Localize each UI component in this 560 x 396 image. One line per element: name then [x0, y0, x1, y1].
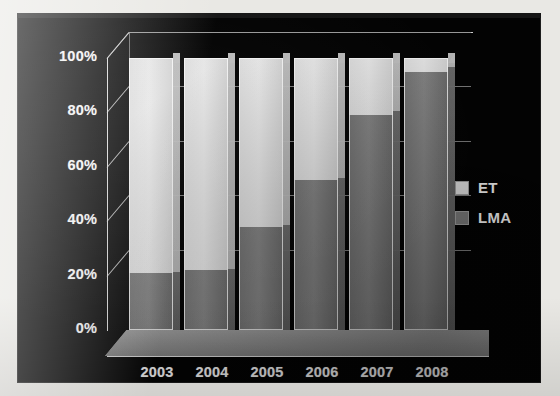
bar-2006[interactable] — [294, 58, 338, 330]
segment-et-2004[interactable] — [184, 58, 228, 270]
segment-lma-2004[interactable] — [184, 270, 228, 330]
bar-2005[interactable] — [239, 58, 283, 330]
legend-item-ET[interactable]: ET — [455, 179, 511, 196]
bar-side-face-2004 — [228, 53, 235, 330]
segment-et-2006[interactable] — [294, 58, 338, 180]
segment-lma-2003[interactable] — [129, 273, 173, 330]
y-axis-tick-label: 60% — [45, 157, 97, 173]
y-axis-line — [107, 58, 108, 331]
x-axis-tick-label-2004: 2004 — [184, 364, 240, 380]
bar-2007[interactable] — [349, 58, 393, 330]
legend-swatch-LMA — [455, 211, 469, 225]
y-axis-tick-label: 20% — [45, 266, 97, 282]
segment-lma-2008[interactable] — [404, 72, 448, 330]
y-gridline — [129, 32, 471, 33]
bar-2008[interactable] — [404, 58, 448, 330]
chart-plate: 0%20%40%60%80%100%2003200420052006200720… — [17, 13, 541, 383]
segment-et-2007[interactable] — [349, 58, 393, 115]
bar-side-face-2005 — [283, 53, 290, 330]
legend-label-LMA: LMA — [478, 209, 511, 226]
legend-item-LMA[interactable]: LMA — [455, 209, 511, 226]
bar-side-face-2006 — [338, 53, 345, 330]
x-axis-tick-label-2008: 2008 — [404, 364, 460, 380]
x-axis-tick-label-2005: 2005 — [239, 364, 295, 380]
chart-legend: ETLMA — [455, 179, 511, 239]
y-tick-leader — [107, 195, 130, 222]
plot-area: 0%20%40%60%80%100%2003200420052006200720… — [17, 13, 541, 383]
bar-2003[interactable] — [129, 58, 173, 330]
segment-et-2005[interactable] — [239, 58, 283, 227]
photo-page-background: 0%20%40%60%80%100%2003200420052006200720… — [0, 0, 560, 396]
bar-2004[interactable] — [184, 58, 228, 330]
x-axis-tick-label-2003: 2003 — [129, 364, 185, 380]
segment-et-2008[interactable] — [404, 58, 448, 72]
y-axis-tick-label: 80% — [45, 102, 97, 118]
y-tick-leader — [107, 87, 130, 114]
x-axis-tick-label-2007: 2007 — [349, 364, 405, 380]
y-tick-leader — [107, 141, 130, 168]
segment-lma-2006[interactable] — [294, 180, 338, 330]
chart-floor-3d — [105, 330, 489, 356]
bar-side-face-2008 — [448, 53, 455, 330]
y-tick-leader — [107, 250, 130, 277]
legend-label-ET: ET — [478, 179, 498, 196]
segment-lma-2007[interactable] — [349, 115, 393, 330]
x-axis-tick-label-2006: 2006 — [294, 364, 350, 380]
segment-et-2003[interactable] — [129, 58, 173, 273]
segment-lma-2005[interactable] — [239, 227, 283, 330]
bar-side-face-2003 — [173, 53, 180, 330]
y-axis-tick-label: 100% — [45, 48, 97, 64]
legend-swatch-ET — [455, 181, 469, 195]
floor-front-edge — [107, 356, 489, 357]
y-axis-tick-label: 0% — [45, 320, 97, 336]
y-axis-tick-label: 40% — [45, 211, 97, 227]
y-tick-leader — [107, 32, 130, 59]
bar-side-face-2007 — [393, 53, 400, 330]
